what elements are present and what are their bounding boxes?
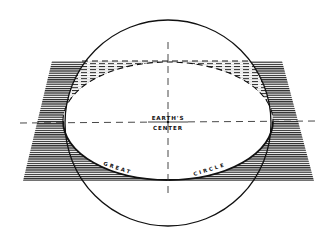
great-circle-diagram: EARTH'S CENTER GREAT CIRCLE <box>0 0 335 238</box>
center-point <box>167 121 169 123</box>
center-label-line2: CENTER <box>153 125 183 131</box>
center-label-line1: EARTH'S <box>152 115 185 121</box>
